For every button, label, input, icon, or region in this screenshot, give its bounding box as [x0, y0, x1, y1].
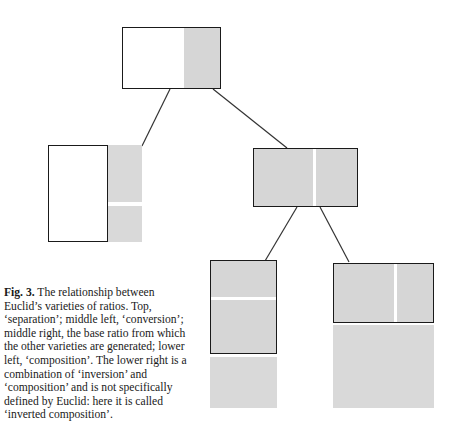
connector-middle-right-to-lower-left: [265, 207, 297, 261]
node-composition-attached-grey: [210, 357, 277, 408]
node-inverted-composition-divider-vertical: [394, 264, 397, 322]
node-conversion-segment-main: [49, 146, 107, 241]
node-separation-segment-right: [184, 28, 220, 88]
figure-caption-label: Fig. 3.: [4, 286, 35, 299]
figure-container: Fig. 3. The relationship between Euclid’…: [0, 0, 458, 435]
node-composition-divider-horizontal: [211, 297, 276, 300]
node-composition-segment-main: [211, 261, 276, 353]
node-inverted-composition-frame: [333, 263, 434, 323]
node-separation-frame: [122, 27, 221, 89]
figure-caption: Fig. 3. The relationship between Euclid’…: [4, 286, 194, 422]
node-base-ratio-divider-vertical: [313, 149, 316, 206]
figure-caption-text: The relationship between Euclid’s variet…: [4, 286, 187, 421]
node-conversion-attached-grey-upper: [108, 145, 142, 202]
node-conversion-attached-grey-lower: [108, 206, 142, 242]
node-separation-segment-left: [123, 28, 184, 88]
node-conversion-frame: [48, 145, 108, 242]
connector-top-to-middle-left: [142, 89, 170, 146]
node-inverted-composition-segment-main: [334, 264, 433, 322]
node-base-ratio-segment-main: [254, 149, 357, 206]
node-inverted-composition-attached-grey: [333, 325, 434, 408]
connector-top-to-middle-right: [213, 89, 287, 148]
connector-middle-right-to-lower-right: [320, 207, 349, 262]
node-base-ratio-frame: [253, 148, 358, 207]
node-composition-frame: [210, 260, 277, 354]
